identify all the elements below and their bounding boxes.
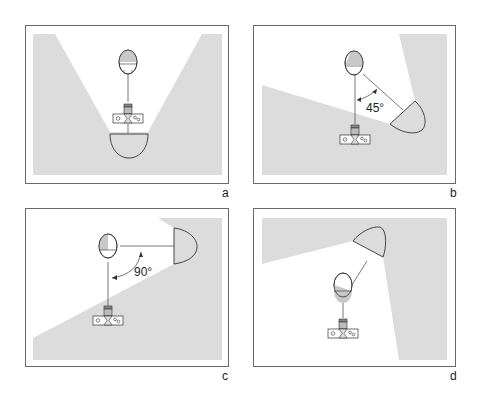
panel-label-a: a — [222, 186, 229, 200]
angle-label: 45° — [366, 101, 384, 115]
angle-label: 90° — [134, 265, 152, 279]
light-meter-icon — [345, 51, 363, 75]
light-meter-icon — [119, 50, 137, 74]
panel-label-d: d — [450, 369, 457, 383]
panel-b: 45° b — [254, 26, 458, 201]
panel-a: a — [26, 26, 230, 201]
panel-d: d — [254, 209, 457, 384]
light-meter-icon — [334, 273, 352, 303]
panel-c: 90° c — [26, 209, 229, 384]
light-meter-icon — [99, 234, 117, 258]
panel-label-c: c — [222, 369, 228, 383]
figure-canvas: a 45° b 90 — [0, 0, 477, 394]
panel-label-b: b — [450, 186, 457, 200]
